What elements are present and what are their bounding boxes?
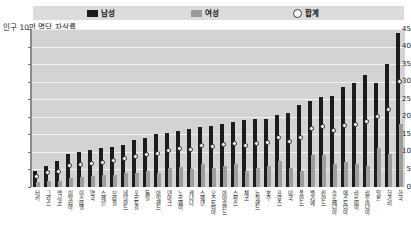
bar-group	[240, 29, 251, 187]
bar-female	[267, 166, 271, 187]
bar-group	[152, 29, 163, 187]
x-tick-label: 그리스	[45, 190, 51, 204]
x-tick-label: 노르웨이	[177, 190, 183, 209]
x-tick-label: 헝가리	[386, 190, 392, 204]
legend-male-label: 남성	[101, 9, 115, 18]
legend-total-circle-icon	[293, 9, 302, 18]
x-tick-label: 벨기에	[309, 190, 315, 204]
bar-female	[256, 168, 260, 187]
y-tick-mark	[28, 169, 31, 170]
y-tick-label: 5	[383, 166, 411, 173]
total-marker	[386, 107, 391, 112]
plot-wrapper: 051015202530354045	[0, 29, 411, 189]
x-tick-label: 캐나다	[188, 190, 194, 204]
bar-group	[218, 29, 229, 187]
total-marker	[375, 114, 380, 119]
y-tick-mark	[28, 152, 31, 153]
legend-female-label: 여성	[205, 9, 219, 18]
bar-female	[168, 168, 172, 187]
legend-total: 합계	[293, 9, 319, 18]
bar-group	[273, 29, 284, 187]
x-tick-label: 브라질	[111, 190, 117, 204]
bar-female	[91, 176, 95, 187]
total-marker	[67, 163, 72, 168]
total-marker	[353, 122, 358, 127]
bar-group	[284, 29, 295, 187]
total-marker	[177, 146, 182, 151]
x-tick-label: 터키	[34, 190, 40, 200]
x-tick-label: 덴마크	[166, 190, 172, 204]
bar-female	[234, 164, 238, 187]
bar-group	[31, 29, 42, 187]
bar-female	[36, 182, 40, 187]
total-marker	[287, 139, 292, 144]
x-tick-label: 라트비아	[353, 190, 359, 209]
bar-group	[229, 29, 240, 187]
bar-female	[157, 173, 161, 187]
bar-group	[130, 29, 141, 187]
bar-group	[53, 29, 64, 187]
bar-female	[355, 164, 359, 187]
y-tick-label: 20	[383, 113, 411, 120]
y-axis-line	[30, 29, 32, 187]
total-marker	[276, 135, 281, 140]
x-tick-label: 멕시코	[56, 190, 62, 204]
x-tick-label: 뉴질랜드	[254, 190, 260, 209]
x-tick-label: 핀란드	[320, 190, 326, 204]
total-marker	[221, 142, 226, 147]
total-marker	[34, 174, 39, 179]
chart-legend: 남성 여성 합계	[33, 6, 404, 20]
bar-female	[300, 171, 304, 187]
legend-female-swatch-icon	[191, 10, 202, 17]
x-tick-label: 스웨덴	[199, 190, 205, 204]
total-marker	[232, 141, 237, 146]
total-marker	[78, 162, 83, 167]
y-tick-label: 15	[383, 131, 411, 138]
bar-female	[311, 155, 315, 187]
bar-female	[278, 161, 282, 187]
total-marker	[254, 141, 259, 146]
total-marker	[166, 148, 171, 153]
x-tick-label: 에스토니아	[342, 190, 348, 214]
x-tick-label: 아이슬란드	[221, 190, 227, 214]
x-tick-label: 체코	[243, 190, 249, 200]
total-marker	[144, 152, 149, 157]
total-marker	[89, 161, 94, 166]
y-tick-mark	[28, 47, 31, 48]
bar-female	[146, 171, 150, 187]
bar-group	[306, 29, 317, 187]
bar-female	[69, 178, 73, 187]
x-tick-label: 리투아니아	[364, 190, 370, 214]
total-marker	[188, 147, 193, 152]
x-tick-label: 오스트리아	[210, 190, 216, 214]
x-tick-label: 슬로베니아	[331, 190, 337, 214]
total-marker	[320, 124, 325, 129]
x-axis-labels: 터키그리스멕시코이탈리아이스라엘영국스페인브라질네덜란드포르투갈독일아일랜드덴마…	[31, 189, 405, 251]
total-marker	[111, 158, 116, 163]
bar-female	[344, 162, 348, 187]
legend-female: 여성	[191, 9, 219, 18]
bar-female	[47, 181, 51, 187]
total-marker	[122, 156, 127, 161]
y-tick-mark	[28, 82, 31, 83]
bar-group	[361, 29, 372, 187]
y-tick-mark	[28, 117, 31, 118]
legend-male-swatch-icon	[87, 10, 98, 17]
y-tick-mark	[28, 29, 31, 30]
total-marker	[155, 151, 160, 156]
x-tick-label: 영국	[89, 190, 95, 200]
x-tick-label: 네덜란드	[122, 190, 128, 209]
bar-female	[245, 171, 249, 187]
bar-group	[163, 29, 174, 187]
bar-group	[108, 29, 119, 187]
x-tick-label: 한국	[397, 190, 403, 200]
bar-group	[328, 29, 339, 187]
bar-group	[394, 29, 405, 187]
bar-female	[58, 181, 62, 187]
bar-group	[262, 29, 273, 187]
bar-female	[135, 173, 139, 187]
x-tick-label: 호주	[265, 190, 271, 200]
bar-group	[119, 29, 130, 187]
total-marker	[364, 119, 369, 124]
bar-group	[207, 29, 218, 187]
